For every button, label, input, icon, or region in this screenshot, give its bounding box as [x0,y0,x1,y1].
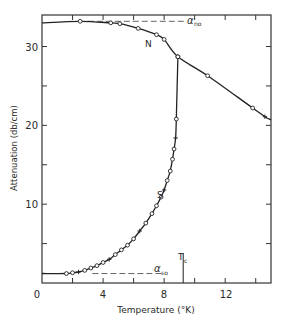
circle-marker [168,169,172,173]
y-tick-labels: 30 20 10 [25,42,38,210]
circle-marker [136,27,140,31]
y-tick-label: 10 [25,199,38,210]
alpha-so-annotation: α so [154,263,168,276]
curve-label-n: N [145,39,152,49]
tc-subscript: c [184,257,187,264]
circle-marker [172,147,176,151]
circle-marker [118,22,122,26]
plot-frame [42,15,271,283]
circle-marker [171,157,175,161]
circle-marker [251,106,255,110]
tc-annotation: T c [177,252,187,264]
axis-ticks [42,15,271,283]
tc-symbol: T [177,252,184,262]
alpha-so-symbol: α [154,263,161,274]
circle-marker [95,264,99,268]
circle-marker [113,253,117,257]
circle-marker [83,268,87,272]
y-axis-label: Attenuation (db/cm) [9,105,19,191]
circle-marker [165,179,169,183]
x-axis-label: Temperature (°K) [116,305,194,315]
x-tick-labels: 0 4 8 12 [34,289,233,300]
circle-marker [176,55,180,59]
circle-marker [132,237,136,241]
circle-marker [78,19,82,23]
circle-marker [155,33,159,37]
circle-marker [109,21,113,25]
circle-marker [126,243,130,247]
alpha-no-subscript: no [194,20,202,27]
y-tick-label: 30 [25,42,38,53]
circle-marker [144,221,148,225]
x-tick-label: 8 [161,289,167,300]
circle-marker [119,248,123,252]
cross-marker [76,270,80,274]
circle-marker [206,74,210,78]
circle-marker [89,266,93,270]
x-tick-label: 0 [34,289,40,300]
y-tick-label: 20 [25,120,38,131]
circle-marker [162,38,166,42]
circle-marker [101,261,105,265]
reference-lines [88,21,186,283]
curve-s [42,57,178,274]
attenuation-vs-temperature-chart: 0 4 8 12 30 20 10 Temperature (°K) Atten… [0,0,281,320]
circle-marker [65,272,69,276]
curve-label-s: S [157,190,163,200]
circle-marker [71,271,75,275]
alpha-no-symbol: α [187,15,194,26]
circle-marker [150,212,154,216]
cross-marker [173,136,177,140]
circle-marker [174,117,178,121]
alpha-so-subscript: so [161,269,168,276]
x-tick-label: 4 [100,289,106,300]
data-markers [65,19,268,275]
data-curves [42,21,271,273]
circle-marker [155,204,159,208]
x-tick-label: 12 [220,289,233,300]
